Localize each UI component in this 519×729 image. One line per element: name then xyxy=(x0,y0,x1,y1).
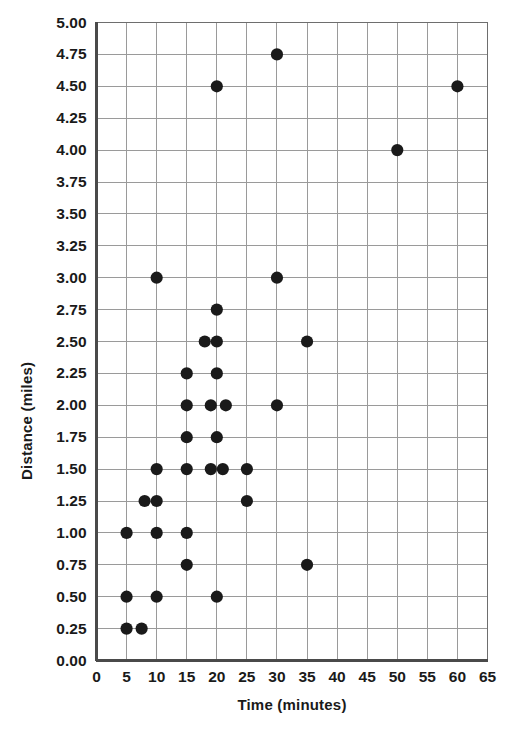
scatter-plot-figure: Distance (miles) Time (minutes) 0.000.25… xyxy=(0,0,519,729)
x-tick-label: 25 xyxy=(238,668,255,686)
x-tick-label: 30 xyxy=(268,668,285,686)
x-tick-label: 10 xyxy=(148,668,165,686)
data-point xyxy=(136,623,148,635)
data-point xyxy=(211,591,223,603)
y-tick-label: 0.75 xyxy=(0,556,87,574)
x-axis-title: Time (minutes) xyxy=(97,696,488,713)
x-tick-label: 50 xyxy=(389,668,406,686)
x-tick-label: 60 xyxy=(449,668,466,686)
data-point xyxy=(120,527,132,539)
data-point xyxy=(301,335,313,347)
x-tick-label: 35 xyxy=(298,668,315,686)
data-point xyxy=(271,48,283,60)
y-tick-label: 0.50 xyxy=(0,588,87,606)
x-tick-label: 45 xyxy=(359,668,376,686)
y-tick-label: 1.75 xyxy=(0,428,87,446)
data-point xyxy=(199,335,211,347)
y-tick-label: 4.50 xyxy=(0,77,87,95)
data-point xyxy=(211,335,223,347)
data-point xyxy=(271,272,283,284)
data-point xyxy=(301,559,313,571)
data-point xyxy=(120,591,132,603)
y-tick-label: 0.25 xyxy=(0,620,87,638)
y-tick-label: 3.75 xyxy=(0,173,87,191)
y-tick-label: 3.50 xyxy=(0,205,87,223)
data-point xyxy=(151,527,163,539)
x-tick-label: 55 xyxy=(419,668,436,686)
plot-frame xyxy=(96,22,488,661)
y-tick-label: 3.00 xyxy=(0,269,87,287)
data-point xyxy=(181,399,193,411)
x-tick-label: 5 xyxy=(122,668,131,686)
data-point xyxy=(271,399,283,411)
x-tick-label: 20 xyxy=(208,668,225,686)
data-point xyxy=(241,495,253,507)
y-tick-label: 2.75 xyxy=(0,301,87,319)
data-points xyxy=(120,48,463,634)
y-tick-label: 1.25 xyxy=(0,492,87,510)
data-point xyxy=(391,144,403,156)
data-point xyxy=(151,495,163,507)
data-point xyxy=(139,495,151,507)
data-point xyxy=(181,463,193,475)
y-tick-label: 2.25 xyxy=(0,364,87,382)
y-tick-label: 4.75 xyxy=(0,45,87,63)
data-point xyxy=(451,80,463,92)
y-tick-label: 1.50 xyxy=(0,460,87,478)
y-tick-label: 0.00 xyxy=(0,652,87,670)
x-tick-label: 65 xyxy=(479,668,496,686)
y-tick-label: 2.00 xyxy=(0,396,87,414)
gridlines xyxy=(97,23,488,661)
x-tick-label: 40 xyxy=(328,668,345,686)
data-point xyxy=(151,272,163,284)
data-point xyxy=(220,399,232,411)
y-tick-label: 3.25 xyxy=(0,237,87,255)
data-point xyxy=(181,431,193,443)
y-tick-label: 2.50 xyxy=(0,333,87,351)
y-tick-label: 5.00 xyxy=(0,14,87,32)
data-point xyxy=(211,367,223,379)
data-point xyxy=(181,367,193,379)
y-tick-label: 4.00 xyxy=(0,141,87,159)
data-point xyxy=(205,399,217,411)
data-point xyxy=(211,304,223,316)
data-point xyxy=(151,463,163,475)
x-tick-label: 0 xyxy=(92,668,101,686)
data-point xyxy=(205,463,217,475)
data-point xyxy=(120,623,132,635)
data-point xyxy=(241,463,253,475)
data-point xyxy=(151,591,163,603)
data-point xyxy=(211,431,223,443)
data-point xyxy=(181,527,193,539)
data-point xyxy=(217,463,229,475)
y-tick-label: 4.25 xyxy=(0,109,87,127)
data-point xyxy=(181,559,193,571)
data-point xyxy=(211,80,223,92)
x-tick-label: 15 xyxy=(178,668,195,686)
y-tick-label: 1.00 xyxy=(0,524,87,542)
